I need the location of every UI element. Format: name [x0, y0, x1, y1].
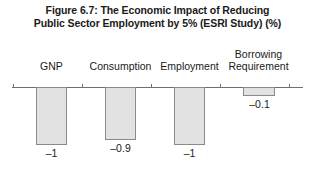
bar-employment [174, 87, 205, 145]
bar-consumption [105, 87, 136, 140]
figure-container: Figure 6.7: The Economic Impact of Reduc… [0, 0, 315, 170]
bar-value-employment: –1 [159, 147, 220, 159]
bar-value-borrowing-requirement: –0.1 [229, 98, 290, 110]
bar-value-gnp: –1 [21, 147, 82, 159]
axis-tick-3 [220, 84, 221, 88]
bar-borrowing-requirement [243, 87, 275, 96]
axis-tick-2 [151, 84, 152, 88]
plot-area: –1 –0.9 –1 –0.1 [0, 0, 315, 170]
bar-gnp [36, 87, 67, 145]
axis-tick-0 [13, 84, 14, 88]
axis-tick-4 [289, 84, 290, 88]
axis-tick-1 [82, 84, 83, 88]
bar-value-consumption: –0.9 [90, 142, 151, 154]
